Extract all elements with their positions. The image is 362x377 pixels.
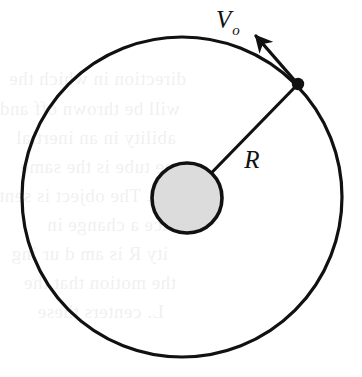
- orbit-diagram-figure: direction in which the will be thrown of…: [0, 0, 362, 377]
- orbiting-body-dot: [292, 78, 304, 90]
- radius-label: R: [243, 146, 259, 173]
- diagram-canvas: Vo R: [0, 0, 362, 377]
- central-body-circle: [152, 163, 222, 233]
- velocity-label: Vo: [216, 6, 240, 38]
- velocity-label-subscript: o: [232, 22, 240, 38]
